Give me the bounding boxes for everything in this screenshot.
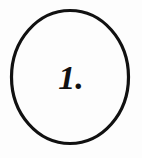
numbered-circle-marker[interactable]: 1. <box>0 0 142 158</box>
marker-number-label: 1. <box>58 59 84 96</box>
marker-canvas: 1. <box>0 0 142 158</box>
